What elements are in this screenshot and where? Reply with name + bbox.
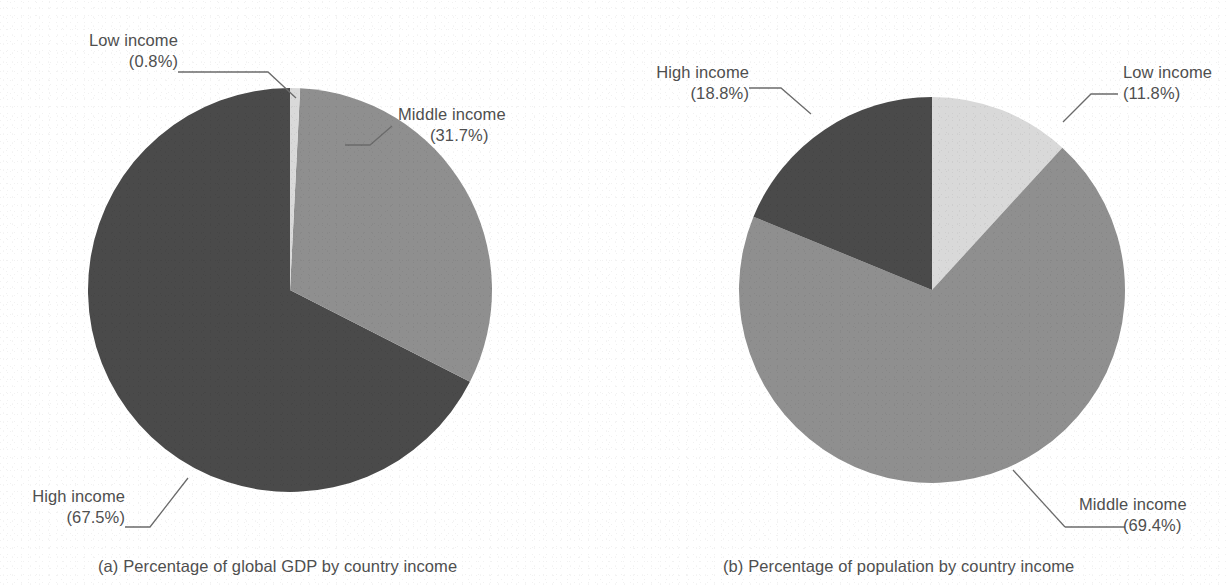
pie-b-caption: (b) Percentage of population by country … (723, 556, 1074, 576)
pie-a-label-high-income: High income (67.5%) (0, 486, 125, 528)
panel-b-population: High income (18.8%) Low income (11.8%) M… (613, 0, 1227, 586)
pie-b-label-low-income-name: Low income (1123, 62, 1227, 83)
pie-b-leader-low-income (1063, 94, 1118, 122)
pie-b-leader-high-income (749, 88, 811, 114)
pie-b-label-low-income-value: (11.8%) (1123, 83, 1227, 104)
pie-b-label-high-income-value: (18.8%) (599, 83, 749, 104)
pie-b-leader-middle-income-elbow (1013, 470, 1065, 527)
pie-b-label-middle-income-name: Middle income (1079, 494, 1227, 515)
pie-a-label-middle-income: Middle income (31.7%) (398, 104, 568, 146)
pie-a-label-low-income: Low income (0.8%) (28, 30, 178, 72)
pie-a-label-low-income-name: Low income (28, 30, 178, 51)
pie-b-label-high-income: High income (18.8%) (599, 62, 749, 104)
pie-a-label-middle-income-name: Middle income (398, 104, 568, 125)
pie-a-caption: (a) Percentage of global GDP by country … (98, 556, 457, 576)
pie-b-label-high-income-name: High income (599, 62, 749, 83)
pie-b-label-middle-income-value: (69.4%) (1079, 515, 1227, 536)
pie-a-label-middle-income-value: (31.7%) (398, 125, 568, 146)
pie-b-label-low-income: Low income (11.8%) (1123, 62, 1227, 104)
pie-chart-figure: Low income (0.8%) Middle income (31.7%) … (0, 0, 1227, 586)
pie-b-label-middle-income: Middle income (69.4%) (1079, 494, 1227, 536)
pie-a-label-high-income-value: (67.5%) (0, 507, 125, 528)
panel-a-gdp: Low income (0.8%) Middle income (31.7%) … (0, 0, 613, 586)
pie-a-leader-high-income (125, 478, 188, 527)
pie-a-label-low-income-value: (0.8%) (28, 51, 178, 72)
pie-a-label-high-income-name: High income (0, 486, 125, 507)
